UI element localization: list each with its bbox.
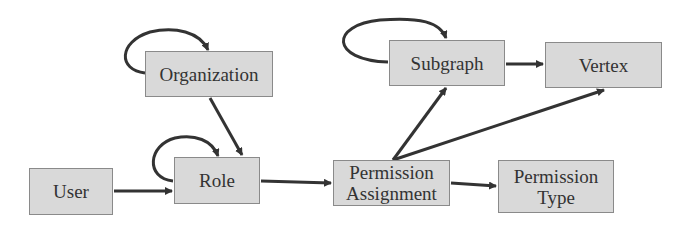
node-label: Role (199, 170, 235, 191)
node-subgraph: Subgraph (389, 40, 505, 86)
node-label-line1: Permission (514, 166, 598, 187)
node-user: User (29, 168, 113, 215)
node-label-line1: Permission (349, 162, 433, 183)
edge-organization-to-role (210, 98, 242, 155)
edge-permission-assignment-to-vertex (393, 90, 604, 160)
node-label: Organization (160, 64, 259, 85)
node-label: User (53, 181, 89, 202)
node-permission-assignment: Permission Assignment (333, 160, 450, 206)
node-organization: Organization (145, 51, 273, 97)
node-label: Vertex (579, 55, 629, 76)
node-vertex: Vertex (545, 42, 662, 88)
node-role: Role (174, 157, 260, 204)
node-permission-type: Permission Type (498, 160, 614, 213)
edge-permission-assignment-to-subgraph (393, 88, 446, 160)
node-label: Subgraph (411, 53, 484, 74)
edge-permission-assignment-to-permission-type (451, 183, 496, 186)
node-label-line2: Type (537, 187, 575, 208)
edge-role-to-permission-assignment (261, 181, 331, 183)
node-label-line2: Assignment (346, 183, 437, 204)
